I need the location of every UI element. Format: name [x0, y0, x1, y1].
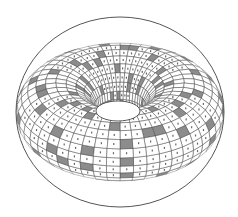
- cell-digit-mark: [126, 168, 127, 170]
- cell-digit-mark: [205, 137, 206, 139]
- cell-digit-mark: [89, 74, 90, 76]
- cell-digit-mark: [113, 152, 114, 154]
- cell-digit-mark: [197, 143, 198, 145]
- cell-digit-mark: [74, 155, 75, 157]
- cell-digit-mark: [140, 160, 141, 162]
- cell-digit-mark: [86, 158, 87, 160]
- cell-digit-mark: [135, 60, 136, 62]
- cell-digit-mark: [131, 52, 132, 54]
- cell-digit-mark: [139, 173, 140, 175]
- cell-digit-mark: [115, 47, 116, 49]
- cell-digit-mark: [142, 71, 143, 73]
- cell-digit-mark: [172, 69, 173, 71]
- cell-digit-mark: [205, 115, 206, 117]
- cell-digit-mark: [187, 148, 188, 150]
- cell-digit-mark: [81, 106, 82, 108]
- cell-digit-mark: [74, 110, 75, 112]
- torus-cell: [173, 83, 184, 88]
- cell-digit-mark: [158, 53, 159, 55]
- cell-digit-mark: [99, 160, 100, 162]
- cell-digit-mark: [100, 151, 101, 153]
- cell-digit-mark: [44, 98, 45, 100]
- cell-digit-mark: [102, 133, 103, 135]
- cell-digit-mark: [137, 69, 138, 71]
- cell-digit-mark: [172, 96, 173, 98]
- torus-cell: [172, 87, 184, 91]
- cell-digit-mark: [113, 77, 114, 79]
- cell-digit-mark: [87, 172, 88, 174]
- cell-digit-mark: [172, 135, 173, 137]
- cell-digit-mark: [105, 78, 106, 80]
- cell-digit-mark: [126, 152, 127, 154]
- cell-digit-mark: [67, 69, 68, 71]
- cell-digit-mark: [61, 123, 62, 125]
- cell-digit-mark: [158, 106, 159, 108]
- cell-digit-mark: [138, 79, 139, 81]
- cell-digit-mark: [137, 133, 138, 135]
- torus-figure: [0, 0, 238, 217]
- cell-digit-mark: [102, 69, 103, 71]
- cell-digit-mark: [177, 159, 178, 161]
- cell-digit-mark: [156, 68, 157, 70]
- cell-digit-mark: [81, 112, 82, 114]
- cell-digit-mark: [29, 123, 30, 125]
- cell-digit-mark: [79, 70, 80, 72]
- cell-digit-mark: [177, 152, 178, 154]
- cell-digit-mark: [195, 134, 196, 136]
- torus-hole: [96, 101, 140, 121]
- cell-digit-mark: [67, 59, 68, 61]
- cell-digit-mark: [139, 151, 140, 153]
- cell-digit-mark: [107, 68, 108, 70]
- cell-digit-mark: [113, 174, 114, 176]
- cell-digit-mark: [116, 52, 117, 54]
- cell-digit-mark: [51, 155, 52, 157]
- cell-digit-mark: [203, 103, 204, 105]
- cell-digit-mark: [74, 163, 75, 165]
- cell-digit-mark: [163, 119, 164, 121]
- cell-digit-mark: [113, 161, 114, 163]
- cell-digit-mark: [185, 107, 186, 109]
- cell-digit-mark: [181, 98, 182, 100]
- torus-cell: [120, 139, 133, 149]
- cell-digit-mark: [111, 86, 112, 88]
- cell-digit-mark: [158, 112, 159, 114]
- cell-digit-mark: [121, 86, 122, 88]
- cell-digit-mark: [117, 76, 118, 78]
- cell-digit-mark: [100, 173, 101, 175]
- cell-digit-mark: [203, 129, 204, 131]
- cell-digit-mark: [165, 55, 166, 57]
- cell-digit-mark: [177, 123, 178, 125]
- cell-digit-mark: [165, 163, 166, 165]
- cell-digit-mark: [158, 59, 159, 61]
- cell-digit-mark: [75, 147, 76, 149]
- cell-digit-mark: [175, 143, 176, 145]
- cell-digit-mark: [127, 95, 128, 97]
- cell-digit-mark: [135, 88, 136, 90]
- cell-digit-mark: [87, 57, 88, 59]
- cell-digit-mark: [104, 88, 105, 90]
- cell-digit-mark: [40, 121, 41, 123]
- cell-digit-mark: [104, 60, 105, 62]
- cell-digit-mark: [97, 117, 98, 119]
- cell-digit-mark: [124, 94, 125, 96]
- cell-digit-mark: [112, 68, 113, 70]
- cell-digit-mark: [210, 109, 211, 111]
- cell-digit-mark: [165, 110, 166, 112]
- cell-digit-mark: [121, 94, 122, 96]
- cell-digit-mark: [94, 123, 95, 125]
- cell-digit-mark: [106, 47, 107, 49]
- cell-digit-mark: [114, 86, 115, 88]
- cell-digit-mark: [101, 79, 102, 81]
- cell-digit-mark: [104, 125, 105, 127]
- cell-digit-mark: [150, 115, 151, 117]
- torus-illustration: [0, 0, 238, 217]
- cell-digit-mark: [197, 150, 198, 152]
- torus-cell: [120, 172, 133, 177]
- cell-digit-mark: [60, 112, 61, 114]
- cell-digit-mark: [153, 158, 154, 160]
- cell-digit-mark: [198, 108, 199, 110]
- cell-digit-mark: [177, 62, 178, 64]
- cell-digit-mark: [70, 100, 71, 102]
- cell-digit-mark: [199, 121, 200, 123]
- cell-digit-mark: [99, 167, 100, 169]
